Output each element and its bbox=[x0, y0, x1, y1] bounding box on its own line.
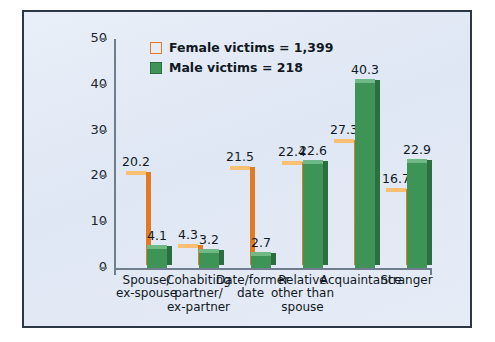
bar-top-face bbox=[199, 249, 219, 253]
bar-top-face bbox=[303, 160, 323, 164]
bar-face bbox=[199, 253, 219, 268]
bar-top-face bbox=[251, 252, 271, 256]
bar-male[interactable]: 3.2 bbox=[199, 253, 219, 268]
bar-top-face bbox=[355, 79, 375, 83]
bar-female[interactable]: 16.7 bbox=[386, 192, 406, 268]
bar-value-label: 20.2 bbox=[122, 154, 150, 169]
bar-face bbox=[147, 249, 167, 268]
bar-face bbox=[230, 170, 250, 268]
category-label: Stranger bbox=[372, 274, 441, 287]
bar-side-face bbox=[375, 80, 380, 265]
bar-top-face bbox=[178, 244, 198, 248]
bar-face bbox=[126, 175, 146, 268]
bar-male[interactable]: 22.9 bbox=[407, 163, 427, 268]
bar-value-label: 4.1 bbox=[147, 228, 167, 243]
bar-male[interactable]: 22.6 bbox=[303, 164, 323, 268]
bar-value-label: 4.3 bbox=[178, 227, 198, 242]
bar-value-label: 22.9 bbox=[403, 142, 431, 157]
chart-frame: 01020304050 Female victims = 1,399 Male … bbox=[22, 10, 472, 328]
bar-side-face bbox=[271, 253, 276, 265]
category-label-line: Stranger bbox=[372, 274, 441, 287]
bar-face bbox=[386, 192, 406, 268]
bar-female[interactable]: 4.3 bbox=[178, 248, 198, 268]
bar-female[interactable]: 22.4 bbox=[282, 165, 302, 268]
bar-side-face bbox=[167, 246, 172, 265]
bar-top-face bbox=[147, 245, 167, 249]
bar-top-face bbox=[386, 188, 406, 192]
bar-male[interactable]: 40.3 bbox=[355, 83, 375, 268]
bar-value-label: 16.7 bbox=[382, 171, 410, 186]
bar-value-label: 2.7 bbox=[251, 235, 271, 250]
bar-side-face bbox=[219, 250, 224, 265]
bar-face bbox=[303, 164, 323, 268]
bar-top-face bbox=[407, 159, 427, 163]
bar-top-face bbox=[282, 161, 302, 165]
category-label-line: other than bbox=[268, 287, 337, 300]
bar-face bbox=[282, 165, 302, 268]
plot-area: 01020304050 Female victims = 1,399 Male … bbox=[24, 12, 470, 326]
bar-female[interactable]: 27.3 bbox=[334, 143, 354, 268]
bar-side-face bbox=[427, 160, 432, 265]
bar-top-face bbox=[230, 166, 250, 170]
bar-face bbox=[334, 143, 354, 268]
bar-value-label: 22.6 bbox=[299, 143, 327, 158]
bar-top-face bbox=[126, 171, 146, 175]
bar-top-face bbox=[334, 139, 354, 143]
bar-side-face bbox=[323, 161, 328, 265]
bar-value-label: 3.2 bbox=[199, 232, 219, 247]
bar-value-label: 40.3 bbox=[351, 62, 379, 77]
bar-female[interactable]: 21.5 bbox=[230, 170, 250, 268]
bar-female[interactable]: 20.2 bbox=[126, 175, 146, 268]
bar-face bbox=[178, 248, 198, 268]
bar-value-label: 27.3 bbox=[330, 122, 358, 137]
bar-male[interactable]: 4.1 bbox=[147, 249, 167, 268]
bar-face bbox=[355, 83, 375, 268]
bar-face bbox=[407, 163, 427, 268]
bar-value-label: 21.5 bbox=[226, 149, 254, 164]
category-label-line: spouse bbox=[268, 301, 337, 314]
category-label-line: ex-partner bbox=[164, 301, 233, 314]
bar-male[interactable]: 2.7 bbox=[251, 256, 271, 268]
bar-side-face bbox=[250, 167, 255, 265]
bar-face bbox=[251, 256, 271, 268]
